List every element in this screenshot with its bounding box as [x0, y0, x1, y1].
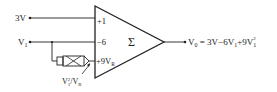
input-v1: V1 — [18, 37, 95, 61]
input-v1-label: V1 — [18, 37, 28, 48]
sigma-symbol: Σ — [128, 35, 135, 49]
output-equation: V0 = 3V−6V1+9V12 — [188, 36, 256, 48]
summing-amplifier: +1 −6 +9VR Σ — [95, 6, 164, 78]
gain-plus-1: +1 — [97, 16, 106, 26]
multiplier-label: V21/VR — [62, 77, 82, 87]
circuit-diagram: 3V V1 V21/VR +1 −6 +9VR Σ V0 = 3V−6V1 — [0, 0, 277, 92]
multiplier-block: V21/VR — [57, 56, 95, 87]
gain-minus-6: −6 — [97, 37, 106, 47]
input-3v-label: 3V — [15, 13, 27, 23]
output: V0 = 3V−6V1+9V12 — [164, 36, 256, 48]
input-3v: 3V — [15, 13, 95, 23]
